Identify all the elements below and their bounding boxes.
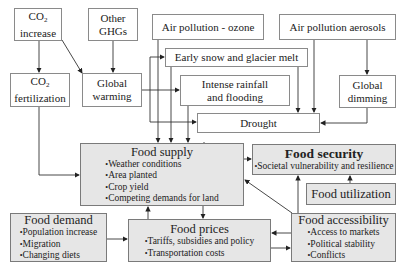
- node-other-ghgs: Other GHGs: [88, 8, 138, 41]
- node-food-prices: Food prices Tariffs, subsidies and polic…: [128, 219, 271, 262]
- bullet-item: Area planted: [105, 170, 218, 182]
- bullet-item: Political stability: [308, 239, 380, 251]
- bullet-item: Migration: [20, 239, 97, 251]
- node-label: Intense rainfall: [202, 78, 268, 91]
- node-label: Global: [97, 77, 127, 90]
- node-food-security: Food security Societal vulnerability and…: [252, 144, 396, 175]
- node-global-warming: Global warming: [82, 73, 142, 107]
- node-label: Drought: [240, 117, 277, 130]
- node-air-pollution-aerosols: Air pollution aerosols: [279, 14, 396, 40]
- node-label: Early snow and glacier melt: [175, 51, 298, 64]
- node-label: and flooding: [207, 91, 263, 104]
- bullet-item: Conflicts: [308, 250, 380, 262]
- node-global-dimming: Global dimming: [339, 75, 396, 108]
- node-title: Food supply: [131, 145, 193, 159]
- node-label: Air pollution - ozone: [162, 21, 255, 34]
- node-food-utilization: Food utilization: [306, 183, 396, 205]
- node-label: Air pollution aerosols: [290, 21, 386, 34]
- node-label: dimming: [348, 92, 388, 105]
- bullet-item: Competing demands for land: [105, 193, 218, 205]
- node-label: warming: [92, 90, 131, 103]
- bullet-item: Changing diets: [20, 250, 97, 262]
- bullet-item: Transportation costs: [145, 248, 255, 260]
- node-label: CO2: [29, 10, 48, 27]
- node-label: CO2: [31, 75, 50, 92]
- node-food-supply: Food supply Weather conditions Area plan…: [80, 143, 244, 206]
- node-title: Food accessibility: [298, 213, 389, 227]
- node-label: increase: [20, 27, 56, 40]
- bullet-item: Tariffs, subsidies and policy: [145, 236, 255, 248]
- bullet-item: Weather conditions: [105, 159, 218, 171]
- node-drought: Drought: [197, 113, 320, 133]
- node-early-snow-glacier-melt: Early snow and glacier melt: [165, 48, 308, 67]
- bullet-item: Societal vulnerability and resilience: [254, 161, 393, 173]
- bullet-item: Access to markets: [308, 227, 380, 239]
- node-label: GHGs: [99, 25, 127, 38]
- node-co2-increase: CO2 increase: [14, 8, 62, 41]
- bullet-list: Population increase Migration Changing d…: [20, 227, 97, 262]
- node-title: Food prices: [170, 222, 229, 236]
- node-intense-rainfall: Intense rainfall and flooding: [180, 75, 290, 106]
- bullet-list: Weather conditions Area planted Crop yie…: [105, 159, 218, 205]
- node-label: fertilization: [14, 92, 65, 105]
- node-title: Food demand: [24, 213, 92, 227]
- bullet-item: Population increase: [20, 227, 97, 239]
- node-label: Global: [353, 79, 383, 92]
- node-food-demand: Food demand Population increase Migratio…: [10, 213, 107, 262]
- node-food-accessibility: Food accessibility Access to markets Pol…: [291, 213, 396, 262]
- node-co2-fertilization: CO2 fertilization: [10, 73, 70, 107]
- node-label: Food utilization: [311, 187, 391, 201]
- bullet-list: Access to markets Political stability Co…: [308, 227, 380, 262]
- bullet-list: Societal vulnerability and resilience: [254, 161, 393, 173]
- node-title: Food security: [285, 147, 363, 161]
- node-label: Other: [100, 12, 125, 25]
- bullet-list: Tariffs, subsidies and policy Transporta…: [145, 236, 255, 259]
- bullet-item: Crop yield: [105, 182, 218, 194]
- node-air-pollution-ozone: Air pollution - ozone: [152, 14, 264, 40]
